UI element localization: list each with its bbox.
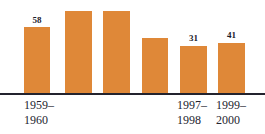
x-tick-label-1997-1998-line1: 1997– (177, 98, 207, 112)
bar-value-label-6: 41 (218, 31, 245, 40)
bar-5 (180, 46, 207, 94)
bar-chart: 58 31 41 1959– 1960 1997– 1998 1999– 200… (0, 0, 265, 134)
x-tick-label-1997-1998-line2: 1998 (177, 113, 207, 128)
x-tick-label-1999-2000-line2: 2000 (216, 113, 246, 128)
bar-1 (24, 27, 50, 94)
bar-2 (65, 11, 92, 94)
plot-area: 58 31 41 (0, 0, 265, 94)
bar-value-label-1: 58 (24, 16, 50, 25)
x-axis-line (0, 93, 265, 95)
x-tick-label-1959-1960: 1959– 1960 (24, 98, 54, 128)
x-tick-label-1999-2000-line1: 1999– (216, 98, 246, 112)
x-tick-label-1959-1960-line2: 1960 (24, 113, 54, 128)
bar-3 (103, 11, 130, 94)
bar-6 (218, 43, 245, 94)
bar-4 (142, 38, 168, 94)
bar-value-label-5: 31 (180, 34, 207, 43)
x-tick-label-1997-1998: 1997– 1998 (177, 98, 207, 128)
x-tick-label-1999-2000: 1999– 2000 (216, 98, 246, 128)
x-tick-label-1959-1960-line1: 1959– (24, 98, 54, 112)
